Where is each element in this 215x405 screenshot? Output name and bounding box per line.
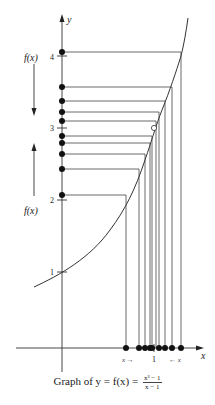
upper-fx-label: f(x) — [24, 52, 39, 64]
y-tick-label-2: 2 — [50, 196, 54, 205]
down-arrow-icon — [32, 108, 37, 116]
x-tick-label-1: 1 — [152, 355, 156, 364]
hole-point — [151, 125, 156, 130]
up-arrow-icon — [32, 143, 37, 151]
vertical-guides — [126, 52, 181, 348]
x-axis-label: x — [200, 350, 206, 361]
y-axis-arrow-icon — [60, 14, 65, 22]
caption-fraction: x³ − 1x − 1 — [143, 374, 162, 391]
x-approach-right-label: ← x — [169, 356, 182, 364]
y-axis-label: y — [66, 14, 72, 25]
lower-fx-label: f(x) — [24, 205, 39, 217]
x-approach-left-label: x → — [121, 356, 134, 364]
figure-caption: Graph of y = f(x) = x³ − 1x − 1 — [0, 374, 215, 391]
y-ticks — [57, 56, 154, 352]
y-tick-label-3: 3 — [50, 124, 54, 133]
caption-numerator: x³ − 1 — [143, 374, 162, 383]
limit-graph: y x 1 2 3 4 1 f(x) f(x) x → ← x — [0, 0, 215, 405]
horizontal-guides — [62, 52, 181, 195]
caption-denominator: x − 1 — [143, 383, 162, 391]
caption-text: Graph of y = f(x) = — [53, 375, 141, 387]
y-tick-label-4: 4 — [50, 53, 54, 62]
y-tick-label-1: 1 — [50, 268, 54, 277]
